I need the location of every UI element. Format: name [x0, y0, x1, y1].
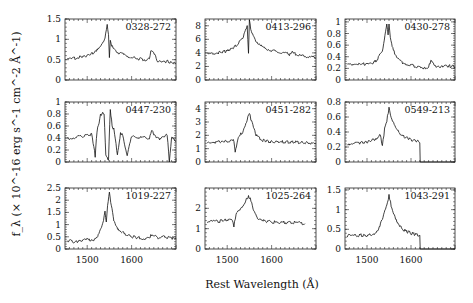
y-tick-label: 1.5 — [47, 14, 62, 24]
object-name-label: 1019-227 — [125, 190, 171, 201]
spectrum-panel: 012340451-282 — [195, 102, 316, 167]
object-name-label: 0413-296 — [265, 21, 311, 32]
y-tick-label: 1 — [195, 224, 201, 234]
y-axis-label: f_λ (× 10^-16 erg s^-1 cm^-2 Å^-1) — [9, 31, 23, 236]
spectrum-panel: 00.20.40.60.810430-278 — [327, 17, 455, 85]
spectrum-line — [207, 114, 316, 153]
y-tick-label: 0.4 — [327, 52, 342, 62]
y-tick-label: 0.2 — [327, 142, 341, 152]
object-name-label: 0549-213 — [404, 104, 450, 115]
y-tick-label: 2 — [195, 61, 201, 71]
y-tick-label: 3 — [195, 117, 201, 127]
spectrum-panel: 00.511.50328-272 — [47, 14, 176, 85]
y-tick-label: 0 — [195, 244, 201, 254]
y-tick-label: 6 — [195, 34, 201, 44]
y-tick-label: 1 — [195, 144, 201, 154]
y-tick-label: 0.6 — [327, 40, 342, 50]
y-tick-label: 8 — [195, 21, 201, 31]
y-tick-label: 0 — [335, 157, 341, 167]
y-tick-label: 0.5 — [47, 55, 62, 65]
object-name-label: 0447-230 — [125, 104, 171, 115]
y-tick-label: 1.5 — [47, 207, 62, 217]
y-tick-label: 1 — [55, 34, 61, 44]
y-tick-label: 2 — [195, 203, 201, 213]
object-name-label: 0430-278 — [404, 21, 450, 32]
y-tick-label: 0.6 — [327, 112, 342, 122]
y-tick-label: 0.4 — [327, 127, 342, 137]
y-tick-label: 0.5 — [327, 224, 342, 234]
y-tick-label: 1 — [335, 205, 341, 215]
spectrum-panel: 024680413-296 — [195, 19, 316, 85]
object-name-label: 0328-272 — [125, 21, 171, 32]
y-tick-label: 0 — [335, 244, 341, 254]
y-tick-label: 2.5 — [47, 183, 62, 193]
spectrum-panel: 00.20.40.60.810447-230 — [47, 97, 176, 167]
x-tick-label: 1600 — [260, 255, 283, 265]
object-name-label: 1025-264 — [265, 190, 311, 201]
spectrum-line — [347, 194, 455, 249]
y-tick-label: 0.5 — [47, 232, 62, 242]
y-tick-label: 0 — [195, 157, 201, 167]
x-tick-label: 1500 — [76, 255, 99, 265]
spectrum-panel: 00.511.5150016001043-291 — [327, 185, 455, 265]
spectrum-line — [67, 110, 176, 163]
y-tick-label: 0.6 — [47, 121, 62, 131]
x-tick-label: 1500 — [356, 255, 379, 265]
y-tick-label: 0 — [55, 157, 61, 167]
x-tick-label: 1600 — [400, 255, 423, 265]
x-axis-label: Rest Wavelength (Å) — [205, 277, 319, 291]
y-tick-label: 0 — [195, 75, 201, 85]
spectrum-panel: 012150016001025-264 — [195, 188, 316, 265]
panel-grid: 00.511.50328-272024680413-29600.20.40.60… — [47, 14, 455, 265]
y-tick-label: 1 — [335, 17, 341, 27]
y-tick-label: 2 — [195, 130, 201, 140]
spectrum-panel: 00.511.522.5150016001019-227 — [47, 183, 176, 265]
y-tick-label: 0.2 — [327, 63, 341, 73]
y-tick-label: 0 — [55, 244, 61, 254]
x-tick-label: 1500 — [216, 255, 239, 265]
spectrum-panel: 00.20.40.60.80549-213 — [327, 97, 455, 167]
y-tick-label: 0.8 — [47, 109, 62, 119]
y-tick-label: 0 — [55, 75, 61, 85]
object-name-label: 0451-282 — [265, 104, 311, 115]
y-tick-label: 0.4 — [47, 133, 62, 143]
x-tick-label: 1600 — [120, 255, 143, 265]
y-tick-label: 1.5 — [327, 185, 342, 195]
y-tick-label: 0 — [335, 75, 341, 85]
y-tick-label: 4 — [195, 104, 201, 114]
spectrum-line — [347, 107, 455, 162]
spectra-figure: 00.511.50328-272024680413-29600.20.40.60… — [0, 0, 473, 303]
y-tick-label: 1 — [55, 220, 61, 230]
y-tick-label: 0.2 — [47, 145, 61, 155]
y-tick-label: 0.8 — [327, 29, 342, 39]
y-tick-label: 4 — [195, 48, 201, 58]
y-tick-label: 0.8 — [327, 97, 342, 107]
y-tick-label: 2 — [55, 195, 61, 205]
y-tick-label: 1 — [55, 97, 61, 107]
object-name-label: 1043-291 — [404, 190, 450, 201]
